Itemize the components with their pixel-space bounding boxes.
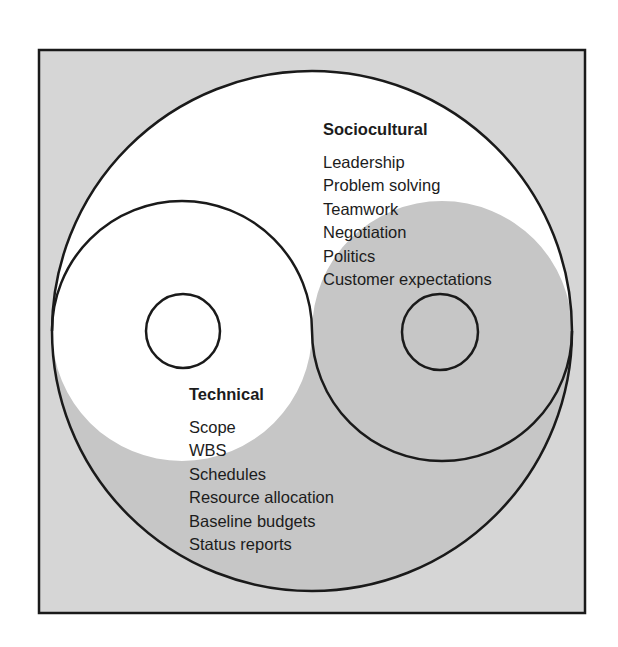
- technical-dot: [146, 294, 220, 368]
- sociocultural-item: Leadership: [323, 151, 492, 175]
- sociocultural-heading: Sociocultural: [323, 118, 492, 142]
- technical-item: Scope: [189, 416, 334, 440]
- sociocultural-item: Customer expectations: [323, 268, 492, 292]
- technical-heading: Technical: [189, 383, 334, 407]
- technical-item: Schedules: [189, 463, 334, 487]
- technical-label-block: Technical Scope WBS Schedules Resource a…: [189, 383, 334, 557]
- technical-item: Status reports: [189, 533, 334, 557]
- sociocultural-label-block: Sociocultural Leadership Problem solving…: [323, 118, 492, 292]
- sociocultural-item: Problem solving: [323, 174, 492, 198]
- sociocultural-dot: [402, 294, 478, 370]
- sociocultural-item: Negotiation: [323, 221, 492, 245]
- technical-item: WBS: [189, 439, 334, 463]
- technical-item: Resource allocation: [189, 486, 334, 510]
- sociocultural-item: Politics: [323, 245, 492, 269]
- technical-item: Baseline budgets: [189, 510, 334, 534]
- sociocultural-item: Teamwork: [323, 198, 492, 222]
